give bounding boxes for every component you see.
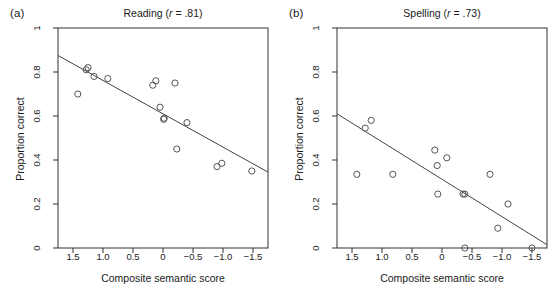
- y-axis-tick-label: 0.6: [30, 104, 44, 128]
- y-axis-tick-label: 0.2: [309, 192, 323, 216]
- x-axis-tick-label: 1.5: [57, 251, 89, 262]
- y-axis-tick-label: 0: [30, 236, 44, 260]
- data-point: [75, 91, 81, 97]
- panel-b-y-axis-title: Proportion correct: [293, 28, 307, 250]
- data-point: [174, 146, 180, 152]
- y-axis-tick-label: 0.8: [30, 60, 44, 84]
- data-point: [368, 117, 374, 123]
- data-point: [435, 191, 441, 197]
- regression-line: [337, 114, 547, 245]
- plot-frame: [58, 28, 268, 248]
- data-point: [219, 160, 225, 166]
- y-axis-tick-label: 0.8: [309, 60, 323, 84]
- data-point: [432, 147, 438, 153]
- x-axis-tick-label: 0: [426, 251, 458, 262]
- panel-a-x-axis-title: Composite semantic score: [58, 272, 268, 284]
- data-point: [105, 76, 111, 82]
- y-axis-tick-label: 0.4: [30, 148, 44, 172]
- y-axis-tick-label: 0.6: [309, 104, 323, 128]
- data-point: [362, 125, 368, 131]
- y-axis-tick-label: 0.2: [30, 192, 44, 216]
- y-axis-tick-label: 1: [309, 16, 323, 40]
- y-axis-tick-label: 1: [30, 16, 44, 40]
- x-axis-tick-label: 1.0: [87, 251, 119, 262]
- x-axis-tick-label: 0.5: [396, 251, 428, 262]
- data-point: [495, 225, 501, 231]
- data-point: [505, 201, 511, 207]
- data-point: [390, 171, 396, 177]
- x-axis-tick-label: 1.5: [336, 251, 368, 262]
- y-axis-tick-label: 0.4: [309, 148, 323, 172]
- data-point: [184, 120, 190, 126]
- x-axis-tick-label: −1.0: [486, 251, 518, 262]
- x-axis-tick-label: −1.0: [207, 251, 239, 262]
- regression-line: [58, 56, 268, 173]
- x-axis-tick-label: 1.0: [366, 251, 398, 262]
- panel-b-x-axis-title: Composite semantic score: [337, 272, 547, 284]
- plot-frame: [337, 28, 547, 248]
- y-axis-tick-label: 0: [309, 236, 323, 260]
- data-point: [434, 162, 440, 168]
- data-point: [172, 80, 178, 86]
- x-axis-tick-label: 0.5: [117, 251, 149, 262]
- data-point: [157, 104, 163, 110]
- panel-b: (b) Spelling (r = .73) Proportion correc…: [279, 0, 558, 300]
- data-point: [153, 78, 159, 84]
- x-axis-tick-label: −0.5: [456, 251, 488, 262]
- data-point: [444, 155, 450, 161]
- data-point: [354, 171, 360, 177]
- panel-a-y-axis-title: Proportion correct: [14, 28, 28, 250]
- figure-root: (a) Reading (r = .81) Proportion correct…: [0, 0, 558, 300]
- data-point: [487, 171, 493, 177]
- x-axis-tick-label: −1.5: [237, 251, 269, 262]
- panel-a: (a) Reading (r = .81) Proportion correct…: [0, 0, 279, 300]
- x-axis-tick-label: 0: [147, 251, 179, 262]
- x-axis-tick-label: −1.5: [516, 251, 548, 262]
- data-point: [150, 82, 156, 88]
- x-axis-tick-label: −0.5: [177, 251, 209, 262]
- data-point: [249, 168, 255, 174]
